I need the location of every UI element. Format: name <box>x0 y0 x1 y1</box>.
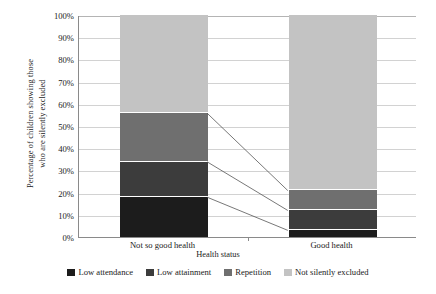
y-axis-tick-label: 0% <box>63 234 74 243</box>
legend-label: Not silently excluded <box>295 268 369 277</box>
legend-item[interactable]: Low attainment <box>146 268 211 277</box>
legend-label: Low attendance <box>78 268 133 277</box>
y-axis-tick-label: 90% <box>58 34 74 43</box>
legend-swatch <box>284 269 292 277</box>
bar-segment[interactable] <box>289 15 377 190</box>
y-axis-tick-label: 60% <box>58 100 74 109</box>
bar-segment[interactable] <box>120 197 208 237</box>
y-axis-tick-label: 20% <box>58 189 74 198</box>
legend-item[interactable]: Low attendance <box>67 268 133 277</box>
stacked-bar-chart: Percentage of children showing those who… <box>0 0 436 294</box>
legend-item[interactable]: Not silently excluded <box>284 268 369 277</box>
x-axis-tick-label: Not so good health <box>93 240 233 250</box>
legend-swatch <box>224 269 232 277</box>
bar-segment[interactable] <box>289 230 377 237</box>
legend-item[interactable]: Repetition <box>224 268 271 277</box>
legend-label: Repetition <box>235 268 271 277</box>
bar-segment[interactable] <box>120 15 208 113</box>
x-axis-tick-label: Good health <box>262 240 402 250</box>
legend-swatch <box>67 269 75 277</box>
legend: Low attendanceLow attainmentRepetitionNo… <box>0 268 436 277</box>
x-axis-tick-mark <box>248 237 249 241</box>
legend-label: Low attainment <box>157 268 211 277</box>
plot-area <box>78 16 416 238</box>
bar-segment[interactable] <box>289 190 377 210</box>
x-axis-title: Health status <box>0 250 436 260</box>
y-axis-tick-label: 30% <box>58 167 74 176</box>
y-axis-tick-label: 40% <box>58 145 74 154</box>
bar[interactable] <box>289 15 377 237</box>
bar-segment[interactable] <box>120 113 208 162</box>
y-axis-tick-label: 50% <box>58 123 74 132</box>
y-axis-tick-label: 80% <box>58 56 74 65</box>
legend-swatch <box>146 269 154 277</box>
bar-segment[interactable] <box>289 210 377 230</box>
bar[interactable] <box>120 15 208 237</box>
y-axis-tick-label: 10% <box>58 211 74 220</box>
y-axis-tick-label: 70% <box>58 78 74 87</box>
y-axis-tick-label: 100% <box>54 12 74 21</box>
bar-segment[interactable] <box>120 162 208 198</box>
